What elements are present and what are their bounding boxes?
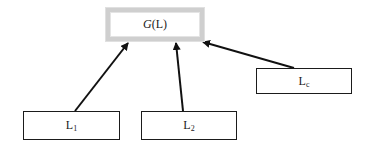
leaf-node-l1: L1 xyxy=(23,111,120,140)
root-node-label: G(L) xyxy=(143,17,167,32)
leaf-node-label: L2 xyxy=(183,118,194,133)
leaf-node-lc: Lc xyxy=(256,68,352,94)
root-node-g-of-l: G(L) xyxy=(106,8,204,41)
leaf-node-label: L1 xyxy=(66,118,77,133)
leaf-node-l2: L2 xyxy=(141,111,237,140)
arrow-l1-to-g xyxy=(75,43,128,111)
diagram-canvas: G(L) L1 L2 Lc xyxy=(0,0,370,149)
arrow-l2-to-g xyxy=(176,43,183,111)
arrow-lc-to-g xyxy=(203,42,294,68)
leaf-node-label: Lc xyxy=(299,74,310,89)
